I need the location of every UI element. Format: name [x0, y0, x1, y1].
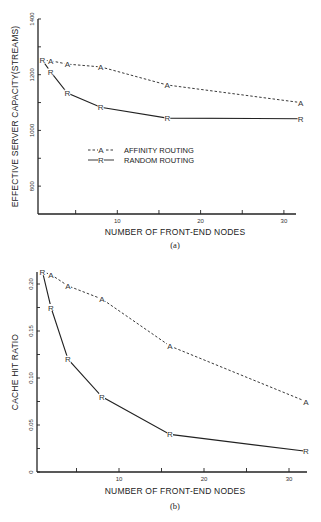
data-point-marker-r: R	[64, 89, 70, 98]
y-tick-label: 0.15	[28, 325, 34, 337]
chart-b-cache-hit-ratio: 00.050.100.150.20102030CACHE HIT RATIONU…	[10, 268, 309, 511]
figure-caption: (b)	[170, 501, 180, 511]
data-point-marker-a: A	[48, 57, 54, 66]
data-point-marker-a: A	[48, 271, 54, 280]
data-point-marker-r: R	[98, 103, 104, 112]
y-tick-label: 1200	[29, 67, 35, 81]
data-point-marker-a: A	[99, 295, 105, 304]
x-tick-label: 20	[201, 476, 208, 482]
data-point-marker-r: R	[48, 304, 54, 313]
x-axis-title: NUMBER OF FRONT-END NODES	[105, 486, 246, 496]
figure: 800100012001400102030EFFECTIVE SERVER CA…	[0, 0, 321, 522]
y-tick-label: 1400	[29, 12, 35, 26]
y-axis-title: CACHE HIT RATIO	[10, 334, 20, 411]
series-line-affinity-routing	[42, 60, 300, 102]
data-point-marker-a: A	[98, 63, 104, 72]
data-point-marker-a: A	[303, 398, 309, 407]
x-tick-label: 20	[197, 218, 204, 224]
x-tick-label: 30	[281, 218, 288, 224]
data-point-marker-a: A	[65, 60, 71, 69]
data-point-marker-r: R	[303, 447, 309, 456]
legend-label: AFFINITY ROUTING	[124, 146, 194, 155]
data-point-marker-a: A	[298, 99, 304, 108]
x-tick-label: 10	[116, 476, 123, 482]
y-tick-label: 0	[28, 470, 34, 474]
data-point-marker-r: R	[164, 114, 170, 123]
data-point-marker-r: R	[298, 115, 304, 124]
y-tick-label: 0.05	[28, 419, 34, 431]
y-tick-label: 800	[29, 180, 35, 191]
data-point-marker-a: A	[165, 81, 171, 90]
data-point-marker-r: R	[167, 430, 173, 439]
figure-caption: (a)	[170, 240, 180, 250]
x-axis-title: NUMBER OF FRONT-END NODES	[105, 227, 246, 237]
y-axis-title: EFFECTIVE SERVER CAPACITY(STREAMS)	[10, 26, 20, 208]
chart-a-server-capacity: 800100012001400102030EFFECTIVE SERVER CA…	[10, 12, 304, 250]
data-point-marker-r: R	[48, 68, 54, 77]
x-tick-label: 30	[286, 476, 293, 482]
series-line-affinity-routing	[43, 272, 307, 402]
legend-entry: AAFFINITY ROUTING	[88, 146, 194, 155]
series-line-random-routing	[42, 60, 300, 119]
legend-label: RANDOM ROUTING	[124, 156, 194, 165]
y-tick-label: 0.20	[28, 278, 34, 290]
legend-marker: A	[98, 146, 104, 155]
y-tick-label: 0.10	[28, 372, 34, 384]
y-tick-label: 1000	[29, 123, 35, 137]
data-point-marker-r: R	[65, 355, 71, 364]
data-point-marker-a: A	[65, 282, 71, 291]
series-line-random-routing	[43, 272, 307, 452]
data-point-marker-r: R	[39, 56, 45, 65]
legend-marker: R	[98, 156, 104, 165]
legend-entry: RRANDOM ROUTING	[88, 156, 194, 165]
data-point-marker-r: R	[99, 393, 105, 402]
x-tick-label: 10	[114, 218, 121, 224]
data-point-marker-r: R	[40, 268, 46, 277]
data-point-marker-a: A	[167, 342, 173, 351]
